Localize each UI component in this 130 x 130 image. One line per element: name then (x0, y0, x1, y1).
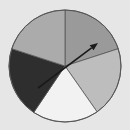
spinner-sectors (9, 10, 121, 122)
spinner-diagram (0, 0, 130, 130)
